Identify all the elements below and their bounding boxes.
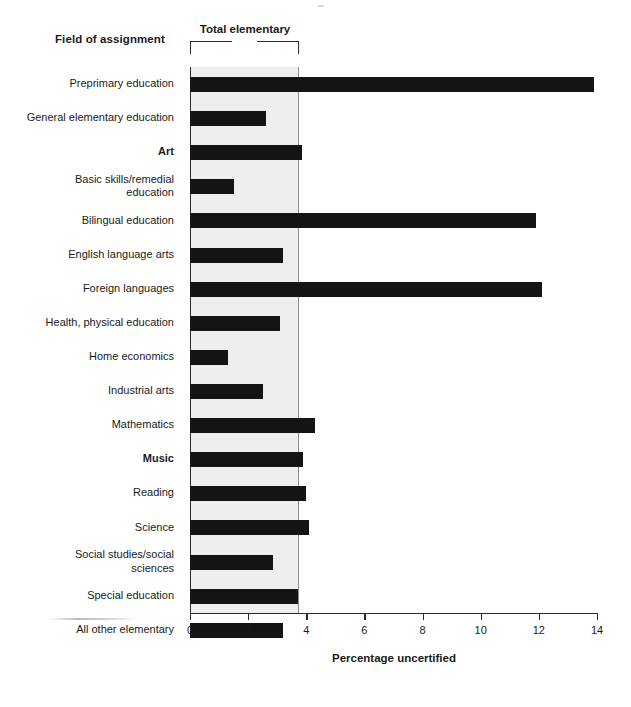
bar [190,316,280,331]
x-axis-tick [597,613,598,620]
bar-row [190,408,597,442]
bar [190,248,283,263]
x-axis-tick-label: 4 [303,624,309,636]
bar-row [190,340,597,374]
bar [190,145,302,160]
bar [190,179,234,194]
bar-row [190,135,597,169]
category-label: Home economics [0,340,182,374]
category-label: Foreign languages [0,272,182,306]
category-label: Bilingual education [0,203,182,237]
x-axis-line [190,613,598,614]
category-label-column: Preprimary educationGeneral elementary e… [0,67,182,613]
x-axis-tick [248,613,249,620]
bar-chart-figure: Field of assignment Total elementary Pre… [0,0,631,707]
bar [190,213,536,228]
category-label: Basic skills/remedialeducation [0,169,182,203]
x-axis-tick-label: 14 [591,624,603,636]
plot-area [190,67,597,613]
x-axis-tick-label: 10 [475,624,487,636]
category-label: Music [0,442,182,476]
x-axis-tick [481,613,482,620]
bar [190,623,283,638]
x-axis-tick [190,613,191,620]
bar [190,589,298,604]
x-axis-tick-label: 6 [361,624,367,636]
category-label: Art [0,135,182,169]
x-axis-tick-label: 8 [420,624,426,636]
scan-artifact-top [318,5,324,7]
category-label: Industrial arts [0,374,182,408]
scan-artifact-bottom [48,618,140,620]
category-label: Preprimary education [0,67,182,101]
bar [190,350,228,365]
bar [190,282,542,297]
bar [190,418,315,433]
x-axis-tick [539,613,540,620]
bar [190,77,594,92]
x-axis-tick [306,613,307,620]
bar-row [190,101,597,135]
x-axis-tick-label: 12 [533,624,545,636]
total-elementary-bracket-label: Total elementary [190,23,300,35]
total-elementary-bracket [190,41,299,54]
bar [190,520,309,535]
bar-row [190,476,597,510]
bar-row [190,272,597,306]
category-label: Science [0,510,182,544]
bar-row [190,238,597,272]
x-axis-tick [423,613,424,620]
category-label: Special education [0,579,182,613]
x-axis-title: Percentage uncertified [190,652,598,664]
bar [190,555,273,570]
bar-row [190,545,597,579]
category-label: General elementary education [0,101,182,135]
category-label: Mathematics [0,408,182,442]
field-of-assignment-title: Field of assignment [55,33,165,45]
x-axis-tick [364,613,365,620]
bar-row [190,442,597,476]
bar-row [190,374,597,408]
bar-rows [190,67,597,613]
bar [190,486,306,501]
category-label: Reading [0,476,182,510]
x-axis-tick-label: 2 [245,624,251,636]
bar-row [190,203,597,237]
bar [190,111,266,126]
bar-row [190,579,597,613]
category-label: Health, physical education [0,306,182,340]
bar [190,384,263,399]
bar [190,452,303,467]
bar-row [190,510,597,544]
category-label: Social studies/socialsciences [0,545,182,579]
bar-row [190,169,597,203]
x-axis-tick-label: 0 [187,624,193,636]
bar-row [190,67,597,101]
bar-row [190,306,597,340]
category-label: English language arts [0,238,182,272]
